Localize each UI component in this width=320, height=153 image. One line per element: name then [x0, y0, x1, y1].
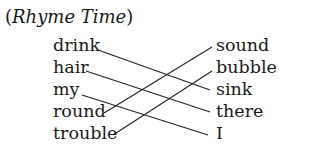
right-word-sink: sink	[216, 79, 252, 99]
right-word-i: I	[216, 123, 223, 143]
match-line-round-sound	[104, 47, 212, 113]
left-word-trouble: trouble	[53, 123, 117, 143]
left-word-hair: hair	[53, 57, 89, 77]
left-word-drink: drink	[53, 35, 100, 55]
right-word-bubble: bubble	[216, 57, 277, 77]
match-line-trouble-bubble	[113, 71, 212, 135]
right-word-there: there	[216, 101, 263, 121]
right-word-sound: sound	[216, 35, 269, 55]
left-word-round: round	[53, 101, 106, 121]
match-line-drink-sink	[98, 50, 210, 90]
left-word-my: my	[53, 79, 79, 99]
